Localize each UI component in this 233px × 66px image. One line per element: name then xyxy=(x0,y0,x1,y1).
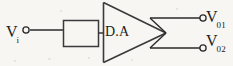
scan-speck xyxy=(48,58,51,60)
scan-speck xyxy=(176,8,178,10)
input-label-symbol: V xyxy=(6,23,18,40)
input-terminal-circle xyxy=(23,27,29,33)
output-2-notch-line xyxy=(150,33,166,48)
scan-speck xyxy=(14,60,16,62)
input-label-subscript: i xyxy=(17,35,20,45)
scan-speck xyxy=(88,57,90,59)
output-2-label-subscript: 02 xyxy=(217,44,227,54)
circuit-diagram-figure: D.A Vi V01 V02 xyxy=(0,0,233,66)
scan-speck xyxy=(131,59,133,61)
output-1-label-subscript: 01 xyxy=(217,20,227,30)
output-2-label-symbol: V xyxy=(206,32,218,49)
input-rectangle-block xyxy=(64,21,99,47)
input-label: Vi xyxy=(6,24,20,43)
scan-speck xyxy=(60,10,62,12)
output-1-label: V01 xyxy=(206,9,227,28)
output-2-label: V02 xyxy=(206,33,227,52)
output-1-label-symbol: V xyxy=(206,8,218,25)
amplifier-label: D.A xyxy=(105,24,129,40)
